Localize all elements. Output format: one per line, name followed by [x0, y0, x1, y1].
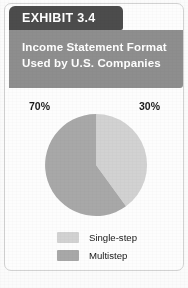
pie-chart: 70% 30%: [5, 88, 183, 228]
exhibit-title-line-2: Used by U.S. Companies: [22, 55, 183, 71]
pie-value-label-single-step: 30%: [139, 100, 160, 112]
legend-swatch-multistep: [57, 250, 79, 261]
legend-label-multistep: Multistep: [89, 250, 127, 261]
exhibit-number-label: EXHIBIT 3.4: [22, 11, 95, 25]
pie-value-label-multistep: 70%: [29, 100, 50, 112]
legend-item-multistep: Multistep: [5, 246, 183, 264]
exhibit-title-line-1: Income Statement Format: [22, 39, 183, 55]
legend-swatch-single-step: [57, 232, 79, 243]
exhibit-number-tab: EXHIBIT 3.4: [9, 6, 123, 30]
chart-legend: Single-step Multistep: [5, 228, 183, 264]
legend-item-single-step: Single-step: [5, 228, 183, 246]
legend-label-single-step: Single-step: [89, 232, 137, 243]
exhibit-card: EXHIBIT 3.4 Income Statement Format Used…: [4, 3, 184, 271]
exhibit-title-band: Income Statement Format Used by U.S. Com…: [9, 30, 183, 88]
exhibit-page: EXHIBIT 3.4 Income Statement Format Used…: [0, 0, 188, 288]
